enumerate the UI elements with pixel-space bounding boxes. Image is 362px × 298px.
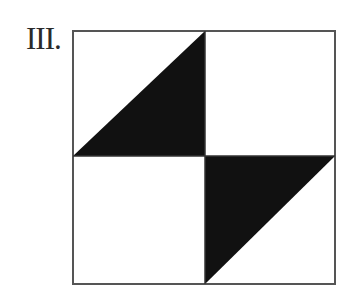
diagram-canvas: III. — [0, 0, 362, 298]
shaded-triangle-top — [73, 31, 205, 156]
shaded-triangle-bottom — [205, 156, 335, 284]
square-figure — [0, 0, 362, 298]
